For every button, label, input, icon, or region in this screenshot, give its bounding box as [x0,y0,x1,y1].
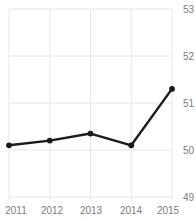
chart-plot-area [0,0,196,219]
y-axis-tick-51: 51 [183,99,194,109]
x-axis-tick-2011: 2011 [5,205,27,216]
data-point-2012 [47,138,53,144]
data-point-2011 [6,142,12,148]
x-axis-tick-2013: 2013 [80,205,102,216]
y-axis-tick-52: 52 [183,52,194,62]
data-point-2015 [169,86,175,92]
data-point-2014 [128,142,134,148]
y-axis-tick-50: 50 [183,146,194,156]
x-axis-tick-2015: 2015 [157,205,179,216]
y-axis-tick-53: 53 [183,5,194,15]
line-chart: 53 52 51 50 49 2011 2012 2013 2014 2015 [0,0,196,219]
x-axis-tick-2012: 2012 [41,205,63,216]
x-axis-tick-2014: 2014 [120,205,142,216]
y-axis-tick-49: 49 [183,193,194,203]
vertical-gridlines [9,9,172,200]
data-point-2013 [88,131,94,137]
